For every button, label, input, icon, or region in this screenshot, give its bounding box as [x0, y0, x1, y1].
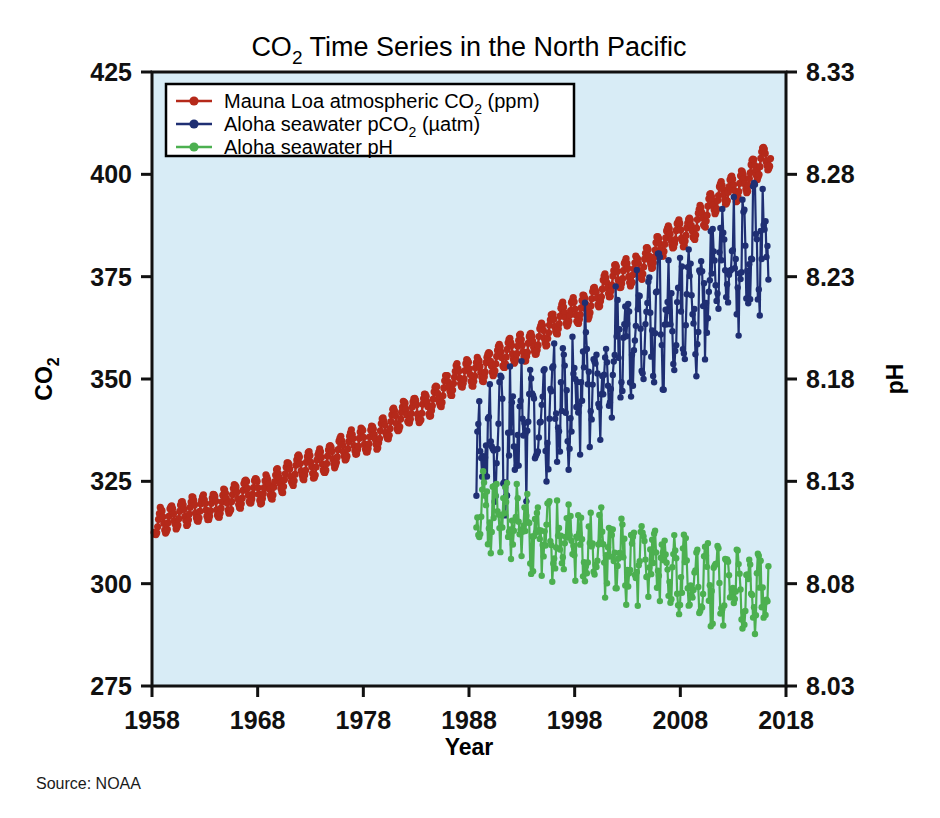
data-point: [693, 373, 699, 379]
data-point: [571, 298, 578, 305]
data-point: [563, 410, 569, 416]
data-point: [477, 531, 483, 537]
data-point: [638, 523, 644, 529]
data-point: [718, 257, 724, 263]
data-point: [243, 478, 250, 485]
data-point: [602, 594, 608, 600]
y-tick-label-right-8.18: 8.18: [806, 365, 855, 393]
data-point: [600, 391, 606, 397]
data-point: [700, 591, 706, 597]
data-point: [676, 220, 683, 227]
data-point: [186, 510, 193, 517]
data-point: [514, 481, 520, 487]
data-point: [519, 342, 526, 349]
data-point: [249, 491, 256, 498]
data-point: [535, 504, 541, 510]
data-point: [517, 397, 523, 403]
data-point: [732, 265, 738, 271]
data-point: [508, 429, 514, 435]
data-point: [640, 264, 647, 271]
data-point: [539, 402, 545, 408]
data-point: [710, 226, 716, 232]
data-point: [578, 379, 584, 385]
data-point: [524, 428, 530, 434]
data-point: [736, 571, 742, 577]
data-point: [635, 603, 641, 609]
data-point: [577, 311, 584, 318]
data-point: [701, 280, 707, 286]
data-point: [538, 419, 544, 425]
data-point: [599, 529, 605, 535]
data-point: [597, 437, 603, 443]
data-point: [543, 341, 550, 348]
data-point: [164, 526, 171, 533]
data-point: [704, 564, 710, 570]
data-point: [586, 368, 592, 374]
data-point: [280, 483, 287, 490]
data-point: [577, 541, 583, 547]
data-point: [534, 342, 541, 349]
data-point: [365, 440, 372, 447]
data-point: [531, 395, 537, 401]
source-note: Source: NOAA: [36, 775, 141, 792]
data-point: [483, 502, 489, 508]
data-point: [650, 560, 656, 566]
data-point: [551, 555, 557, 561]
data-point: [544, 440, 550, 446]
data-point: [541, 366, 547, 372]
data-point: [542, 448, 548, 454]
data-point: [695, 329, 701, 335]
data-point: [633, 575, 639, 581]
data-point: [522, 528, 528, 534]
data-point: [587, 302, 594, 309]
data-point: [244, 485, 251, 492]
data-point: [180, 506, 187, 513]
data-point: [724, 197, 731, 204]
data-point: [666, 308, 672, 314]
data-point: [641, 349, 647, 355]
data-point: [591, 571, 597, 577]
data-point: [734, 284, 740, 290]
data-point: [759, 186, 765, 192]
data-point: [747, 296, 753, 302]
data-point: [766, 163, 773, 170]
data-point: [715, 306, 721, 312]
x-axis-title: Year: [445, 734, 494, 760]
legend-swatch-marker: [189, 119, 198, 128]
data-point: [174, 522, 181, 529]
data-point: [681, 350, 687, 356]
y-tick-label-left-275: 275: [90, 672, 132, 700]
data-point: [714, 290, 720, 296]
data-point: [596, 404, 602, 410]
data-point: [695, 584, 701, 590]
data-point: [672, 236, 679, 243]
data-point: [408, 410, 415, 417]
data-point: [623, 601, 629, 607]
data-point: [537, 536, 543, 542]
data-point: [739, 196, 745, 202]
data-point: [618, 516, 624, 522]
chart-legend[interactable]: Mauna Loa atmospheric CO2 (ppm)Aloha sea…: [166, 84, 574, 158]
x-tick-label-2018: 2018: [758, 706, 814, 734]
data-point: [735, 332, 741, 338]
data-point: [494, 446, 500, 452]
data-point: [631, 530, 637, 536]
x-tick-label-1978: 1978: [336, 706, 392, 734]
data-point: [207, 507, 214, 514]
y-tick-label-left-400: 400: [90, 160, 132, 188]
data-point: [735, 561, 741, 567]
legend-label: Aloha seawater pH: [224, 136, 393, 158]
data-point: [762, 612, 768, 618]
data-point: [552, 565, 558, 571]
data-point: [488, 550, 494, 556]
data-point: [641, 538, 647, 544]
data-point: [610, 372, 616, 378]
data-point: [668, 596, 674, 602]
data-point: [561, 351, 567, 357]
data-point: [640, 376, 646, 382]
data-point: [755, 296, 761, 302]
data-point: [562, 540, 568, 546]
data-point: [475, 421, 481, 427]
data-point: [551, 340, 557, 346]
data-point: [567, 415, 573, 421]
